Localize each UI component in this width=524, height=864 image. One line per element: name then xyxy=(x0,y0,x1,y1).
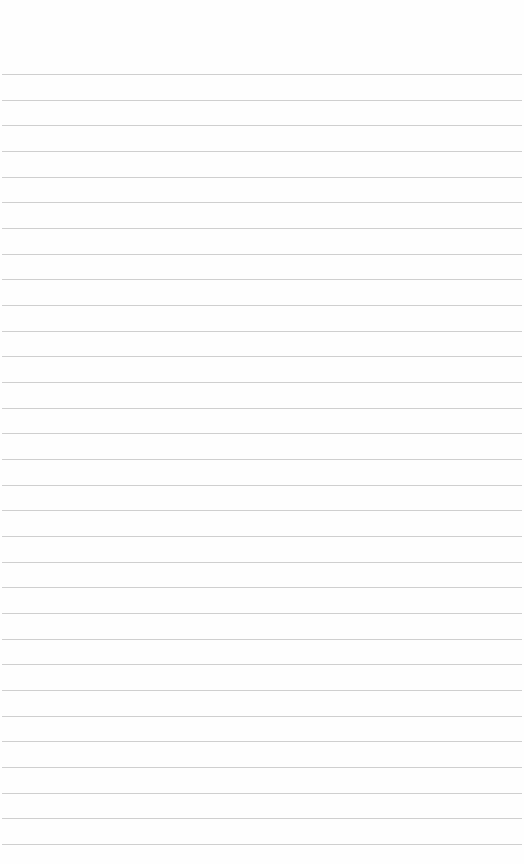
ruled-line xyxy=(2,562,522,563)
ruled-line xyxy=(2,228,522,229)
ruled-line xyxy=(2,485,522,486)
ruled-line xyxy=(2,690,522,691)
ruled-line xyxy=(2,664,522,665)
ruled-line xyxy=(2,433,522,434)
ruled-line xyxy=(2,382,522,383)
ruled-line xyxy=(2,305,522,306)
ruled-line xyxy=(2,100,522,101)
ruled-line xyxy=(2,408,522,409)
ruled-line xyxy=(2,459,522,460)
ruled-line xyxy=(2,818,522,819)
ruled-line xyxy=(2,716,522,717)
ruled-line xyxy=(2,844,522,845)
ruled-line xyxy=(2,177,522,178)
ruled-line xyxy=(2,254,522,255)
ruled-line xyxy=(2,767,522,768)
ruled-line xyxy=(2,331,522,332)
ruled-line xyxy=(2,125,522,126)
ruled-line xyxy=(2,639,522,640)
ruled-line xyxy=(2,151,522,152)
ruled-line xyxy=(2,279,522,280)
ruled-line xyxy=(2,74,522,75)
ruled-line xyxy=(2,510,522,511)
ruled-line xyxy=(2,793,522,794)
ruled-line xyxy=(2,202,522,203)
ruled-line xyxy=(2,587,522,588)
ruled-line xyxy=(2,356,522,357)
lined-paper xyxy=(0,0,524,864)
ruled-line xyxy=(2,536,522,537)
ruled-line xyxy=(2,741,522,742)
ruled-line xyxy=(2,613,522,614)
